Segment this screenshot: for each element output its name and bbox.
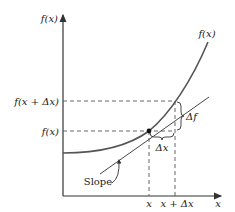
derivative-diagram: f(x) f(x) f(x + Δx) f(x) Δf Δx Slope x x… (0, 0, 235, 212)
upper-level-label: f(x + Δx) (13, 96, 59, 107)
x-tick-label: x (146, 198, 152, 209)
lower-level-label: f(x) (41, 126, 59, 137)
curve-label: f(x) (197, 28, 215, 39)
tangent-line (100, 97, 209, 174)
tangent-point (147, 129, 152, 134)
x-plus-dx-tick-label: x + Δx (160, 198, 194, 209)
delta-f-label: Δf (185, 111, 199, 122)
function-curve (63, 42, 208, 153)
y-axis-label: f(x) (40, 13, 58, 24)
slope-label: Slope (84, 176, 112, 187)
delta-x-label: Δx (155, 142, 169, 153)
x-axis-label: x (215, 198, 221, 209)
delta-f-brace (177, 102, 184, 130)
